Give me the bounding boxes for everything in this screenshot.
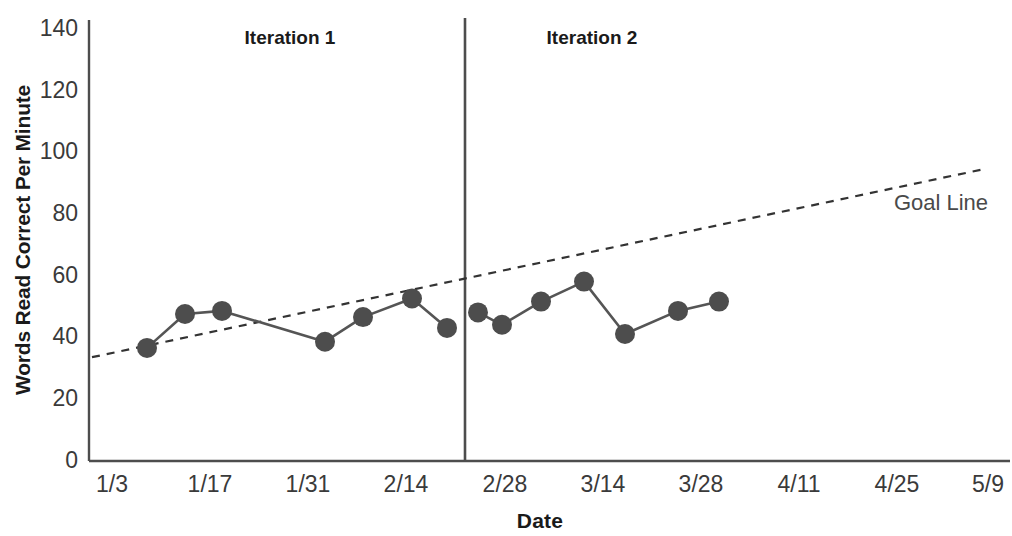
chart-canvas: Words Read Correct Per Minute Date 140 1… bbox=[0, 0, 1012, 536]
y-tick-label: 60 bbox=[52, 262, 78, 288]
x-tick-label: 5/9 bbox=[972, 471, 1004, 497]
y-tick-label: 0 bbox=[65, 447, 78, 473]
x-tick-label: 3/28 bbox=[679, 471, 724, 497]
y-axis-tick-labels: 140 120 100 80 60 40 20 0 bbox=[40, 15, 78, 473]
data-point-marker bbox=[574, 272, 594, 292]
data-point-marker bbox=[615, 324, 635, 344]
y-tick-label: 20 bbox=[52, 385, 78, 411]
data-point-marker bbox=[353, 307, 373, 327]
y-tick-label: 40 bbox=[52, 323, 78, 349]
data-point-marker bbox=[212, 301, 232, 321]
x-axis-title: Date bbox=[517, 509, 563, 532]
data-point-marker bbox=[668, 301, 688, 321]
x-tick-label: 4/25 bbox=[875, 471, 920, 497]
x-tick-label: 4/11 bbox=[777, 471, 820, 497]
data-point-marker bbox=[468, 302, 488, 322]
x-tick-label: 1/3 bbox=[96, 471, 128, 497]
data-point-marker bbox=[402, 289, 422, 309]
y-tick-label: 120 bbox=[40, 77, 78, 103]
data-point-marker bbox=[175, 304, 195, 324]
phase-label-iteration-1: Iteration 1 bbox=[245, 27, 336, 48]
goal-line-label: Goal Line bbox=[894, 190, 988, 215]
reading-fluency-progress-chart: Words Read Correct Per Minute Date 140 1… bbox=[0, 0, 1012, 536]
data-point-marker bbox=[137, 338, 157, 358]
data-point-marker bbox=[492, 315, 512, 335]
x-tick-label: 3/14 bbox=[581, 471, 626, 497]
y-axis-title: Words Read Correct Per Minute bbox=[11, 85, 34, 395]
x-tick-label: 1/17 bbox=[188, 471, 233, 497]
y-tick-label: 100 bbox=[40, 138, 78, 164]
x-tick-label: 2/28 bbox=[483, 471, 528, 497]
phase-label-iteration-2: Iteration 2 bbox=[547, 27, 638, 48]
data-series-line-iteration-1 bbox=[147, 299, 447, 348]
y-tick-label: 140 bbox=[40, 15, 78, 41]
data-point-marker bbox=[709, 292, 729, 312]
data-point-marker bbox=[315, 332, 335, 352]
data-point-marker bbox=[437, 318, 457, 338]
y-tick-label: 80 bbox=[52, 200, 78, 226]
x-tick-label: 1/31 bbox=[286, 471, 331, 497]
x-tick-label: 2/14 bbox=[384, 471, 429, 497]
x-axis-tick-labels: 1/3 1/17 1/31 2/14 2/28 3/14 3/28 4/11 4… bbox=[96, 471, 1004, 497]
goal-line bbox=[92, 169, 985, 357]
data-point-marker bbox=[531, 292, 551, 312]
